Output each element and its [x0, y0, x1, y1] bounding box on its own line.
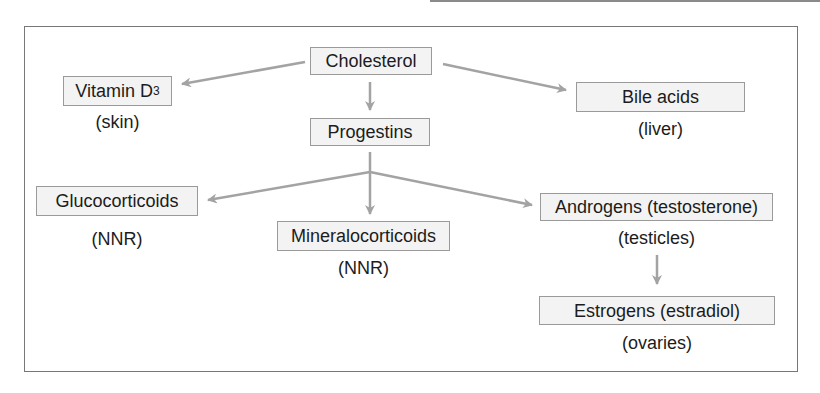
arrow-progestins-to-glucocorticoids	[208, 172, 370, 200]
node-label: Bile acids	[622, 88, 699, 106]
arrow-progestins-to-androgens	[370, 172, 532, 205]
location-ovaries: (ovaries)	[539, 333, 775, 354]
node-mineralocorticoids: Mineralocorticoids	[277, 221, 450, 251]
location-testicles: (testicles)	[540, 228, 773, 249]
node-label: Cholesterol	[325, 52, 416, 70]
location-nnr-glucocorticoids: (NNR)	[36, 229, 198, 250]
node-progestins: Progestins	[310, 118, 430, 146]
node-label: Mineralocorticoids	[291, 227, 436, 245]
location-liver: (liver)	[576, 119, 745, 140]
node-cholesterol: Cholesterol	[310, 47, 432, 75]
arrow-cholesterol-to-vitamin-d3	[182, 62, 305, 84]
location-nnr-mineralocorticoids: (NNR)	[277, 258, 450, 279]
location-skin: (skin)	[63, 112, 172, 133]
node-label: Estrogens (estradiol)	[574, 302, 740, 320]
node-vitamin-d3: Vitamin D3	[63, 76, 172, 106]
node-androgens: Androgens (testosterone)	[540, 193, 773, 221]
node-glucocorticoids: Glucocorticoids	[36, 186, 198, 216]
node-label: Vitamin D	[75, 82, 153, 100]
node-estrogens: Estrogens (estradiol)	[539, 296, 775, 325]
node-label: Glucocorticoids	[55, 192, 178, 210]
node-bile-acids: Bile acids	[576, 82, 745, 112]
arrow-cholesterol-to-bile-acids	[443, 64, 566, 90]
node-label-subscript: 3	[153, 85, 160, 97]
node-label: Progestins	[327, 123, 412, 141]
node-label: Androgens (testosterone)	[555, 198, 758, 216]
